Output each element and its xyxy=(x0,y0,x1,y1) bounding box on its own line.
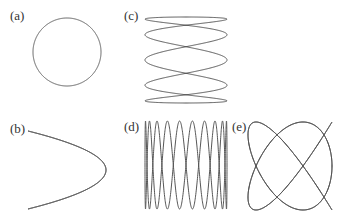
curve-e-lissajous xyxy=(248,122,332,210)
curve-a-circle xyxy=(33,18,101,86)
lissajous-figure-canvas xyxy=(0,0,350,221)
curve-c-lissajous xyxy=(145,17,227,103)
panel-label-b: (b) xyxy=(10,121,25,137)
panel-label-c: (c) xyxy=(124,8,138,24)
panel-label-d: (d) xyxy=(124,119,139,135)
curve-b-figure-eight xyxy=(28,131,106,209)
panel-label-a: (a) xyxy=(10,8,24,24)
curve-d-lissajous xyxy=(145,121,227,209)
panel-label-e: (e) xyxy=(232,119,246,135)
